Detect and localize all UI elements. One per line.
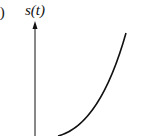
y-axis-arrow-icon	[33, 21, 38, 29]
curve	[58, 33, 126, 136]
plot	[0, 0, 156, 136]
